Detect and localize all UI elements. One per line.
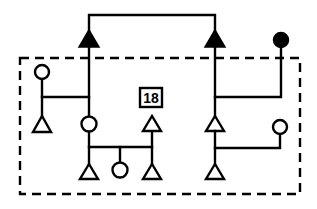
dashed-boundary [20,58,300,194]
bottom-right-open-triangle [143,164,161,179]
right-open-triangle-lower [206,164,224,179]
right-open-triangle-upper [206,116,224,131]
top-right-filled-triangle [205,30,225,47]
label-text: 18 [143,90,159,106]
right-branch-line [215,134,280,148]
mid-right-open-triangle [143,116,161,131]
filled-circle-connector [215,46,281,97]
top-right-filled-circle [274,33,289,48]
top-left-filled-triangle [79,30,99,47]
bottom-left-open-triangle [80,164,98,179]
diagram-canvas: 18 [0,0,317,209]
left-open-circle [35,65,49,79]
left-open-triangle [33,116,51,132]
center-open-circle [82,117,97,132]
top-connector-line [89,15,215,46]
bottom-center-open-circle [113,163,128,178]
right-open-circle [273,120,287,134]
